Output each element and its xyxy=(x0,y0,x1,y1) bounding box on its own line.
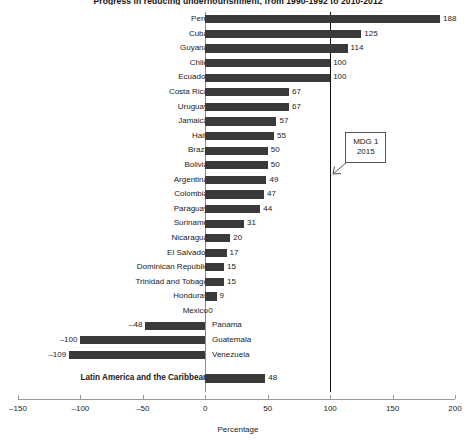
category-label: Latin America and the Caribbean xyxy=(80,371,208,386)
chart-root: Progress in reducing undernourishment, f… xyxy=(0,0,476,444)
bar-row: Colombia47 xyxy=(18,187,455,202)
x-axis-tick-label: –50 xyxy=(136,404,149,413)
bar xyxy=(205,263,224,271)
mdg-callout-line2: 2015 xyxy=(353,147,378,157)
value-label: 44 xyxy=(263,202,272,217)
bar xyxy=(205,205,260,213)
value-label: 100 xyxy=(333,70,346,85)
x-axis-tick xyxy=(205,395,206,399)
bar xyxy=(69,351,205,359)
bar xyxy=(205,88,289,96)
bar-row: Brazil50 xyxy=(18,143,455,158)
value-label: –109 xyxy=(48,348,66,363)
value-label: 50 xyxy=(271,143,280,158)
bar-row: Jamaica57 xyxy=(18,114,455,129)
bar-row: Ecuador100 xyxy=(18,70,455,85)
value-label: 47 xyxy=(267,187,276,202)
x-axis-title: Percentage xyxy=(0,425,476,434)
value-label: 15 xyxy=(227,260,236,275)
value-label: 67 xyxy=(292,85,301,100)
bar-row: Haiti55 xyxy=(18,129,455,144)
x-axis-tick xyxy=(330,395,331,399)
bar xyxy=(205,190,264,198)
bar xyxy=(205,132,274,140)
value-label: 31 xyxy=(247,216,256,231)
bar xyxy=(205,234,230,242)
category-label: Paraguay xyxy=(174,202,208,217)
bar-row: Guyana114 xyxy=(18,41,455,56)
x-axis-tick xyxy=(143,395,144,399)
bar-row: Mexico0 xyxy=(18,304,455,319)
value-label: 50 xyxy=(271,158,280,173)
bar xyxy=(205,15,440,23)
bar-row: Argentina49 xyxy=(18,173,455,188)
x-axis: –150–100–50050100150200 xyxy=(18,399,455,400)
value-label: 0 xyxy=(208,304,212,319)
category-label: Nicaragua xyxy=(172,231,208,246)
bar xyxy=(205,161,267,169)
bar xyxy=(80,336,205,344)
value-label: 100 xyxy=(333,56,346,71)
x-axis-tick xyxy=(268,395,269,399)
category-label: Argentina xyxy=(174,173,208,188)
category-label: Honduras xyxy=(173,289,208,304)
bar-row: Bolivia50 xyxy=(18,158,455,173)
bar-row: El Salvador17 xyxy=(18,246,455,261)
category-label: El Salvador xyxy=(167,246,208,261)
x-axis-tick-label: 200 xyxy=(448,404,461,413)
x-axis-tick-label: 0 xyxy=(203,404,207,413)
bar-row: Cuba125 xyxy=(18,27,455,42)
bar xyxy=(205,59,330,67)
bar-row: Peru188 xyxy=(18,12,455,27)
bar xyxy=(145,322,205,330)
category-label: Venezuela xyxy=(212,348,249,363)
mdg-callout: MDG 1 2015 xyxy=(345,132,386,163)
bar xyxy=(205,220,244,228)
x-axis-tick xyxy=(80,395,81,399)
bar-row: Suriname31 xyxy=(18,216,455,231)
x-axis-tick xyxy=(18,395,19,399)
category-label: Dominican Republic xyxy=(137,260,208,275)
bar xyxy=(205,44,347,52)
bar-rows: Peru188Cuba125Guyana114Chile100Ecuador10… xyxy=(18,12,455,386)
category-label: Panama xyxy=(212,318,242,333)
category-label: Uruguay xyxy=(178,100,208,115)
bar-row: Venezuela–109 xyxy=(18,348,455,363)
bar-row: Guatemala–100 xyxy=(18,333,455,348)
value-label: 48 xyxy=(268,371,277,386)
bar xyxy=(205,30,361,38)
bar-row: Dominican Republic15 xyxy=(18,260,455,275)
x-axis-tick xyxy=(393,395,394,399)
category-label: Jamaica xyxy=(178,114,208,129)
bar xyxy=(205,147,267,155)
x-axis-tick-label: –150 xyxy=(9,404,27,413)
bar-row: Uruguay67 xyxy=(18,100,455,115)
value-label: 17 xyxy=(230,246,239,261)
bar xyxy=(205,249,226,257)
category-label: Colombia xyxy=(174,187,208,202)
x-axis-tick xyxy=(455,395,456,399)
bar-row: Honduras9 xyxy=(18,289,455,304)
plot-area: Peru188Cuba125Guyana114Chile100Ecuador10… xyxy=(18,12,455,394)
value-label: –100 xyxy=(60,333,78,348)
value-label: –48 xyxy=(129,318,142,333)
bar-row: Trinidad and Tobago15 xyxy=(18,275,455,290)
bar xyxy=(205,176,266,184)
bar xyxy=(205,117,276,125)
bar xyxy=(205,292,216,300)
value-label: 188 xyxy=(443,12,456,27)
category-label: Trinidad and Tobago xyxy=(136,275,209,290)
value-label: 55 xyxy=(277,129,286,144)
bar-row: Costa Rica67 xyxy=(18,85,455,100)
value-label: 20 xyxy=(233,231,242,246)
bar xyxy=(205,278,224,286)
category-label: Ecuador xyxy=(178,70,208,85)
x-axis-tick-label: 100 xyxy=(323,404,336,413)
value-label: 49 xyxy=(269,173,278,188)
bar xyxy=(205,74,330,82)
bar-row: Paraguay44 xyxy=(18,202,455,217)
category-label: Guyana xyxy=(180,41,208,56)
x-axis-tick-label: –100 xyxy=(72,404,90,413)
summary-row: Latin America and the Caribbean48 xyxy=(18,371,455,386)
value-label: 57 xyxy=(279,114,288,129)
